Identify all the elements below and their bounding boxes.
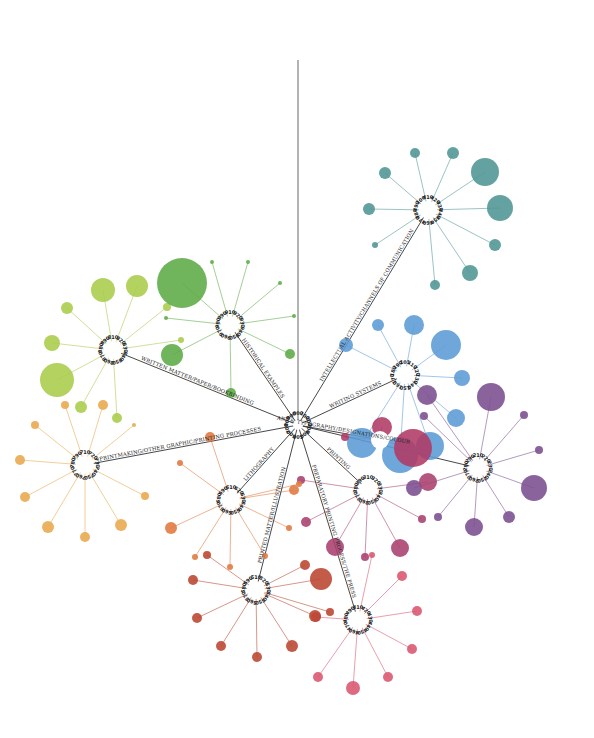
leaf-node-printed-matter[interactable] — [216, 641, 226, 651]
branch-label-printing: PRINTING — [326, 446, 352, 471]
leaf-node-written-matter[interactable] — [91, 278, 115, 302]
leaf-node-purple[interactable] — [521, 475, 547, 501]
leaf-node-lithography[interactable] — [192, 554, 198, 560]
hub-center — [396, 366, 414, 384]
leaf-node-printed-matter[interactable] — [203, 551, 211, 559]
leaf-node-intellectual[interactable] — [379, 167, 391, 179]
leaf-node-written-matter[interactable] — [112, 413, 122, 423]
leaf-node-printmaking[interactable] — [20, 492, 30, 502]
leaf-node-printed-matter[interactable] — [326, 608, 334, 616]
leaf-node-purple[interactable] — [520, 411, 528, 419]
leaf-node-writing-systems[interactable] — [372, 319, 384, 331]
leaf-node-historical[interactable] — [157, 258, 207, 308]
leaf-node-printmaking[interactable] — [15, 455, 25, 465]
leaf-node-intellectual[interactable] — [363, 203, 375, 215]
leaf-node-intellectual[interactable] — [489, 239, 501, 251]
leaf-node-lithography[interactable] — [286, 525, 292, 531]
leaf-node-printmaking[interactable] — [80, 532, 90, 542]
leaf-node-printed-matter[interactable] — [188, 575, 198, 585]
leaf-node-printing[interactable] — [418, 515, 426, 523]
leaf-node-historical[interactable] — [164, 316, 168, 320]
leaf-node-printed-matter[interactable] — [310, 568, 332, 590]
branch-spoke-written-matter — [113, 350, 298, 425]
leaf-node-intellectual[interactable] — [410, 148, 420, 158]
leaf-node-press[interactable] — [369, 552, 375, 558]
branch-label-writing-systems: WRITING SYSTEMS — [328, 379, 382, 409]
leaf-node-lithography[interactable] — [296, 481, 302, 487]
leaf-node-historical[interactable] — [161, 344, 183, 366]
leaf-node-written-matter[interactable] — [126, 275, 148, 297]
leaf-node-printmaking[interactable] — [141, 492, 149, 500]
leaf-node-press[interactable] — [383, 672, 393, 682]
branch-spoke-printed-matter — [256, 425, 298, 590]
leaf-node-written-matter[interactable] — [61, 302, 73, 314]
leaf-node-purple[interactable] — [503, 511, 515, 523]
leaf-node-intellectual[interactable] — [447, 147, 459, 159]
leaf-node-printed-matter[interactable] — [309, 610, 321, 622]
leaf-node-written-matter[interactable] — [44, 335, 60, 351]
leaf-node-art-of-typography[interactable] — [394, 429, 432, 467]
leaf-node-written-matter[interactable] — [40, 363, 74, 397]
leaf-node-printmaking[interactable] — [61, 401, 69, 409]
branch-label-printmaking: PRINTMAKING/OTHER GRAPHIC/PRINTING PROCE… — [99, 425, 262, 461]
hub-center — [76, 456, 94, 474]
leaf-node-historical[interactable] — [278, 281, 282, 285]
hub-center — [222, 491, 240, 509]
leaf-spoke — [207, 555, 256, 590]
leaf-spoke — [180, 463, 231, 500]
leaf-node-lithography[interactable] — [165, 522, 177, 534]
leaf-node-printmaking[interactable] — [132, 423, 136, 427]
leaf-node-intellectual[interactable] — [430, 280, 440, 290]
leaf-node-intellectual[interactable] — [372, 242, 378, 248]
leaf-node-press[interactable] — [346, 681, 360, 695]
leaf-node-purple[interactable] — [420, 412, 428, 420]
leaf-node-writing-systems[interactable] — [404, 315, 424, 335]
leaf-node-writing-systems[interactable] — [454, 370, 470, 386]
leaf-node-printed-matter[interactable] — [286, 640, 298, 652]
leaf-node-printed-matter[interactable] — [192, 613, 202, 623]
leaf-node-press[interactable] — [412, 606, 422, 616]
leaf-node-printing[interactable] — [391, 539, 409, 557]
leaf-node-purple[interactable] — [477, 383, 505, 411]
leaf-node-historical[interactable] — [210, 260, 214, 264]
leaf-node-press[interactable] — [397, 571, 407, 581]
leaf-node-printing[interactable] — [301, 517, 311, 527]
leaf-node-printmaking[interactable] — [31, 421, 39, 429]
leaf-node-writing-systems[interactable] — [447, 409, 465, 427]
leaf-node-printed-matter[interactable] — [300, 560, 310, 570]
leaf-node-purple[interactable] — [434, 513, 442, 521]
leaf-spoke — [35, 425, 85, 465]
branch-label-lithography: LITHOGRAPHY — [242, 446, 275, 482]
leaf-spoke — [67, 308, 113, 350]
leaf-node-intellectual[interactable] — [471, 158, 499, 186]
leaf-node-intellectual[interactable] — [487, 195, 513, 221]
leaf-node-intellectual[interactable] — [462, 265, 478, 281]
leaf-node-purple[interactable] — [417, 385, 437, 405]
leaf-node-printmaking[interactable] — [115, 519, 127, 531]
leaf-node-press[interactable] — [313, 672, 323, 682]
leaf-spoke — [358, 576, 402, 620]
leaf-spoke — [438, 468, 478, 517]
leaf-node-art-of-typography[interactable] — [341, 433, 349, 441]
hub-center — [104, 341, 122, 359]
radial-tree-diagram: 0001002003004005006007008009004104204304… — [0, 0, 594, 738]
hub-center — [469, 459, 487, 477]
leaf-node-lithography[interactable] — [227, 564, 233, 570]
leaf-node-purple[interactable] — [535, 446, 543, 454]
leaf-node-written-matter[interactable] — [178, 337, 184, 343]
leaf-node-historical[interactable] — [292, 314, 296, 318]
leaf-node-historical[interactable] — [285, 349, 295, 359]
leaf-node-press[interactable] — [407, 644, 417, 654]
leaf-node-purple[interactable] — [465, 518, 483, 536]
leaf-node-lithography[interactable] — [177, 460, 183, 466]
hub-center — [221, 316, 239, 334]
leaf-node-printed-matter[interactable] — [252, 652, 262, 662]
leaf-node-printing[interactable] — [361, 553, 369, 561]
leaf-node-written-matter[interactable] — [75, 401, 87, 413]
leaf-node-printmaking[interactable] — [42, 521, 54, 533]
leaf-node-printmaking[interactable] — [98, 400, 108, 410]
branch-label-historical: HISTORICAL EXAMPLES — [241, 337, 286, 399]
leaf-node-writing-systems[interactable] — [431, 330, 461, 360]
leaf-node-historical[interactable] — [246, 260, 250, 264]
leaf-node-printing[interactable] — [419, 473, 437, 491]
